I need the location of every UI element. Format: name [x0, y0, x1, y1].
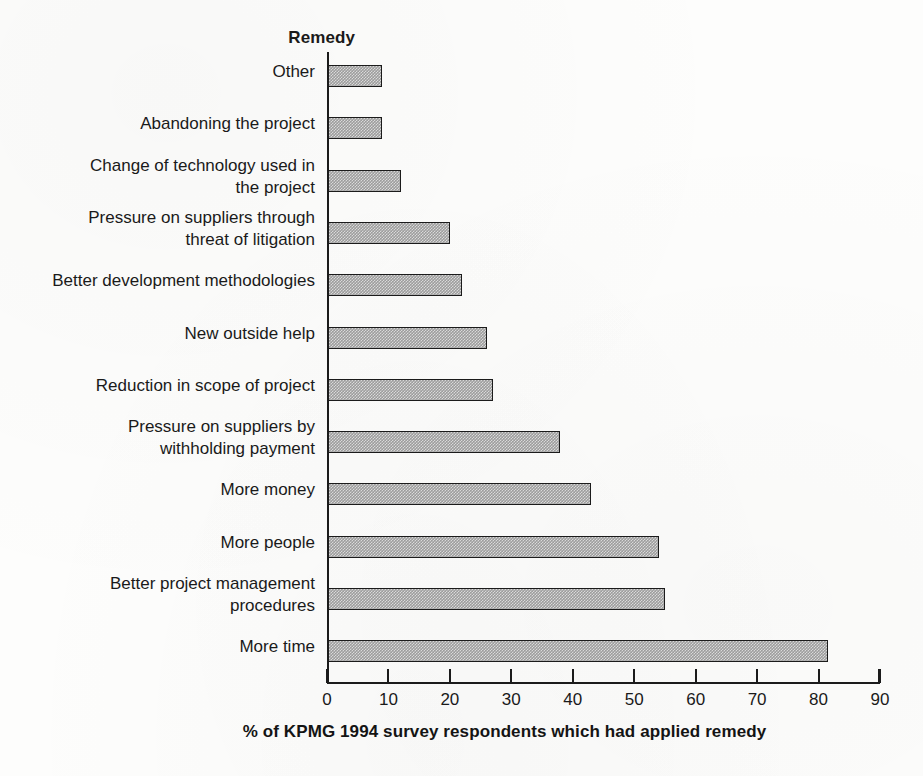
- category-label: More people: [0, 532, 315, 554]
- x-tick-60: [695, 669, 697, 683]
- bar: [328, 483, 591, 505]
- category-label: Better project management procedures: [0, 573, 315, 617]
- bar: [328, 117, 382, 139]
- x-tick-70: [756, 669, 758, 683]
- bar-row: Better development methodologies: [0, 264, 923, 316]
- category-label: More money: [0, 479, 315, 501]
- bar-row: More people: [0, 526, 923, 578]
- x-tick-label-80: 80: [789, 690, 849, 710]
- x-tick-20: [449, 669, 451, 683]
- bar-row: New outside help: [0, 317, 923, 369]
- category-label: New outside help: [0, 323, 315, 345]
- x-tick-30: [510, 669, 512, 683]
- bar: [328, 327, 487, 349]
- x-axis-title: % of KPMG 1994 survey respondents which …: [0, 722, 923, 742]
- bar: [328, 170, 401, 192]
- bar-row: Abandoning the project: [0, 107, 923, 159]
- x-tick-label-90: 90: [850, 690, 910, 710]
- bar-row: Pressure on suppliers by withholding pay…: [0, 421, 923, 473]
- bar: [328, 640, 828, 662]
- x-tick-0: [326, 669, 328, 683]
- x-tick-90: [879, 669, 881, 683]
- category-label: Reduction in scope of project: [0, 375, 315, 397]
- bar-row: Pressure on suppliers through threat of …: [0, 212, 923, 264]
- y-axis-title: Remedy: [288, 28, 355, 48]
- bar-row: Reduction in scope of project: [0, 369, 923, 421]
- category-label: Change of technology used in the project: [0, 155, 315, 199]
- category-label: Better development methodologies: [0, 270, 315, 292]
- x-tick-label-40: 40: [543, 690, 603, 710]
- x-tick-10: [387, 669, 389, 683]
- bar: [328, 222, 450, 244]
- x-tick-50: [633, 669, 635, 683]
- bar-row: More time: [0, 630, 923, 682]
- x-tick-label-10: 10: [358, 690, 418, 710]
- bar: [328, 588, 665, 610]
- bar-row: Change of technology used in the project: [0, 160, 923, 212]
- bar: [328, 536, 659, 558]
- category-label: Abandoning the project: [0, 113, 315, 135]
- category-label: Other: [0, 61, 315, 83]
- bar-row: More money: [0, 473, 923, 525]
- x-tick-80: [818, 669, 820, 683]
- x-tick-label-20: 20: [420, 690, 480, 710]
- x-tick-label-70: 70: [727, 690, 787, 710]
- bar-row: Other: [0, 55, 923, 107]
- bar: [328, 379, 493, 401]
- x-tick-label-50: 50: [604, 690, 664, 710]
- x-tick-label-0: 0: [297, 690, 357, 710]
- x-tick-40: [572, 669, 574, 683]
- chart-page: Remedy OtherAbandoning the projectChange…: [0, 0, 923, 776]
- category-label: More time: [0, 636, 315, 658]
- bar-chart: Remedy OtherAbandoning the projectChange…: [0, 0, 923, 776]
- category-label: Pressure on suppliers by withholding pay…: [0, 416, 315, 460]
- x-tick-label-60: 60: [666, 690, 726, 710]
- category-label: Pressure on suppliers through threat of …: [0, 207, 315, 251]
- bar: [328, 431, 560, 453]
- x-axis-title-text: % of KPMG 1994 survey respondents which …: [243, 722, 767, 742]
- bar-row: Better project management procedures: [0, 578, 923, 630]
- bar: [328, 274, 462, 296]
- x-tick-label-30: 30: [481, 690, 541, 710]
- x-axis-line: [327, 682, 880, 684]
- bar: [328, 65, 382, 87]
